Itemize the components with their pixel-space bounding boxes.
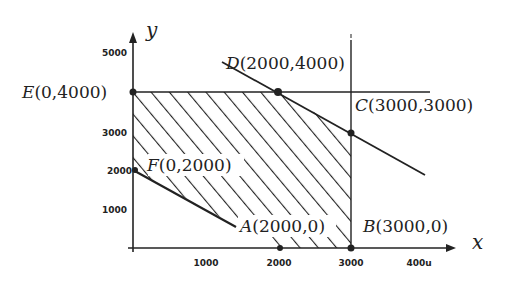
y-axis-arrow-icon: [129, 32, 137, 43]
y-tick-1000: 1000: [102, 205, 127, 215]
point-b: [348, 245, 355, 252]
label-e: E(0,4000): [21, 82, 107, 102]
point-d: [274, 88, 282, 96]
x-axis-label: x: [472, 230, 483, 254]
x-tick-3000: 3000: [338, 258, 363, 268]
x-tick-4000: 400u: [406, 258, 431, 268]
point-f: [132, 167, 138, 173]
label-d: D(2000,4000): [225, 53, 345, 73]
label-a: A(2000,0): [238, 216, 325, 236]
point-a: [277, 245, 283, 251]
y-tick-5000: 5000: [102, 48, 127, 58]
x-axis-arrow-icon: [446, 244, 456, 252]
label-f: F(0,2000): [146, 155, 232, 175]
y-tick-3000: 3000: [102, 128, 127, 138]
y-tick-2000: 2000: [107, 166, 132, 176]
label-c: C(3000,3000): [355, 95, 473, 115]
x-tick-1000: 1000: [193, 258, 218, 268]
feasible-region-diagram: 5000 3000 2000 1000 1000 2000 3000 400u …: [0, 0, 521, 287]
x-tick-2000: 2000: [266, 258, 291, 268]
point-c: [348, 130, 355, 137]
point-e: [130, 89, 137, 96]
label-b: B(3000,0): [362, 216, 448, 236]
y-axis-label: y: [145, 18, 158, 42]
